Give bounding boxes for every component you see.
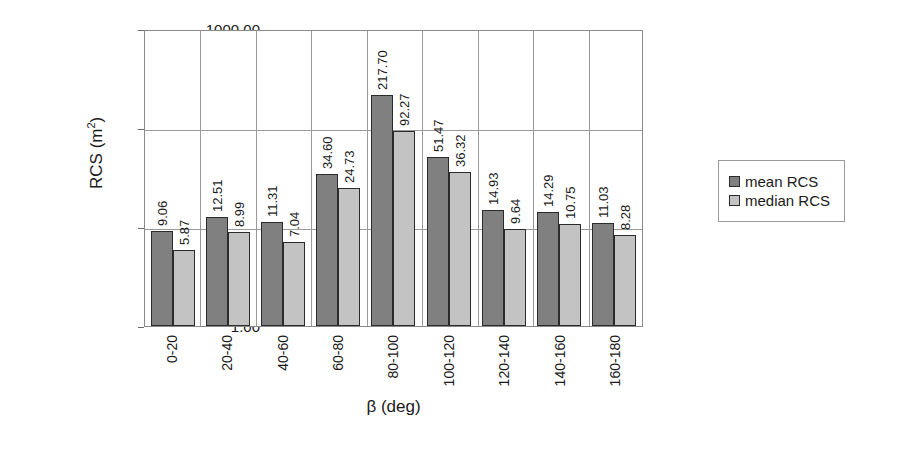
bar-mean-rcs[interactable]: 11.31 bbox=[261, 222, 283, 326]
bar-mean-rcs[interactable]: 14.29 bbox=[537, 212, 559, 326]
bar-pair: 217.7092.27 bbox=[366, 31, 421, 326]
x-axis-tick-label: 160-180 bbox=[608, 335, 622, 386]
bar-group: 11.317.04 bbox=[255, 31, 310, 326]
legend-entry-median-rcs[interactable]: median RCS bbox=[729, 193, 830, 208]
bar-value-label: 10.75 bbox=[564, 186, 577, 219]
y-axis-tick-mark bbox=[138, 327, 144, 328]
bar-value-label: 36.32 bbox=[454, 134, 467, 167]
legend-swatch-median-icon bbox=[729, 195, 740, 206]
bar-mean-rcs[interactable]: 9.06 bbox=[151, 231, 173, 326]
bar-value-label: 5.87 bbox=[178, 220, 191, 245]
bar-pair: 14.939.64 bbox=[476, 31, 531, 326]
bar-mean-rcs[interactable]: 11.03 bbox=[592, 223, 614, 326]
x-axis-tick-label: 120-140 bbox=[497, 335, 511, 386]
plot-area: 9.065.8712.518.9911.317.0434.6024.73217.… bbox=[144, 30, 643, 327]
y-axis-title-tail: ) bbox=[87, 117, 106, 123]
x-axis-title: β (deg) bbox=[144, 398, 643, 415]
y-axis-title-exponent: 2 bbox=[85, 122, 97, 128]
bar-group: 9.065.87 bbox=[145, 31, 200, 326]
x-axis-tick-label: 80-100 bbox=[386, 335, 400, 379]
bar-group: 11.038.28 bbox=[587, 31, 642, 326]
bar-pair: 11.317.04 bbox=[255, 31, 310, 326]
bar-median-rcs[interactable]: 36.32 bbox=[449, 172, 471, 326]
bar-value-label: 34.60 bbox=[321, 136, 334, 169]
bar-group-container: 9.065.8712.518.9911.317.0434.6024.73217.… bbox=[145, 31, 642, 326]
bar-value-label: 7.04 bbox=[288, 212, 301, 237]
bar-group: 14.939.64 bbox=[476, 31, 531, 326]
legend-label-median: median RCS bbox=[745, 193, 830, 208]
bar-mean-rcs[interactable]: 34.60 bbox=[316, 174, 338, 326]
bar-group: 12.518.99 bbox=[200, 31, 255, 326]
bar-mean-rcs[interactable]: 12.51 bbox=[206, 217, 228, 326]
bar-median-rcs[interactable]: 8.28 bbox=[614, 235, 636, 326]
bar-pair: 12.518.99 bbox=[200, 31, 255, 326]
bar-value-label: 11.31 bbox=[266, 185, 279, 217]
bar-value-label: 11.03 bbox=[597, 186, 610, 218]
bar-value-label: 24.73 bbox=[343, 151, 356, 184]
bar-mean-rcs[interactable]: 217.70 bbox=[371, 95, 393, 326]
y-axis-title: RCS (m2) bbox=[83, 53, 105, 253]
bar-value-label: 14.29 bbox=[542, 174, 555, 207]
bar-value-label: 92.27 bbox=[398, 94, 411, 127]
bar-median-rcs[interactable]: 8.99 bbox=[228, 232, 250, 326]
legend-label-mean: mean RCS bbox=[745, 174, 818, 189]
y-axis-title-base: RCS (m bbox=[87, 129, 106, 189]
bar-median-rcs[interactable]: 5.87 bbox=[173, 250, 195, 326]
bar-pair: 11.038.28 bbox=[587, 31, 642, 326]
x-axis-tick-label: 20-40 bbox=[220, 335, 234, 371]
bar-pair: 51.4736.32 bbox=[421, 31, 476, 326]
bar-value-label: 12.51 bbox=[211, 180, 224, 213]
bar-pair: 34.6024.73 bbox=[311, 31, 366, 326]
bar-group: 51.4736.32 bbox=[421, 31, 476, 326]
legend-swatch-mean-icon bbox=[729, 176, 740, 187]
chart-legend: mean RCS median RCS bbox=[718, 160, 845, 222]
x-axis-tick-label: 60-80 bbox=[331, 335, 345, 371]
bar-group: 34.6024.73 bbox=[311, 31, 366, 326]
bar-median-rcs[interactable]: 92.27 bbox=[393, 131, 415, 326]
bar-value-label: 8.28 bbox=[619, 205, 632, 230]
bar-value-label: 14.93 bbox=[487, 172, 500, 205]
x-axis-tick-label: 40-60 bbox=[276, 335, 290, 371]
bar-value-label: 9.64 bbox=[509, 198, 522, 223]
bar-mean-rcs[interactable]: 51.47 bbox=[427, 157, 449, 326]
legend-entry-mean-rcs[interactable]: mean RCS bbox=[729, 174, 830, 189]
bar-median-rcs[interactable]: 24.73 bbox=[338, 188, 360, 326]
x-axis-tick-label: 100-120 bbox=[442, 335, 456, 386]
bar-value-label: 9.06 bbox=[156, 201, 169, 226]
bar-pair: 9.065.87 bbox=[145, 31, 200, 326]
x-axis-tick-label: 140-160 bbox=[553, 335, 567, 386]
bar-median-rcs[interactable]: 7.04 bbox=[283, 242, 305, 326]
bar-median-rcs[interactable]: 10.75 bbox=[559, 224, 581, 326]
rcs-bar-chart: RCS (m2) 1000.00100.0010.001.00 9.065.87… bbox=[0, 0, 909, 457]
bar-pair: 14.2910.75 bbox=[532, 31, 587, 326]
bar-value-label: 51.47 bbox=[432, 119, 445, 152]
bar-mean-rcs[interactable]: 14.93 bbox=[482, 210, 504, 326]
bar-value-label: 217.70 bbox=[376, 50, 389, 90]
x-axis-tick-label: 0-20 bbox=[165, 335, 179, 363]
bar-group: 217.7092.27 bbox=[366, 31, 421, 326]
bar-value-label: 8.99 bbox=[233, 201, 246, 226]
bar-median-rcs[interactable]: 9.64 bbox=[504, 229, 526, 326]
bar-group: 14.2910.75 bbox=[532, 31, 587, 326]
